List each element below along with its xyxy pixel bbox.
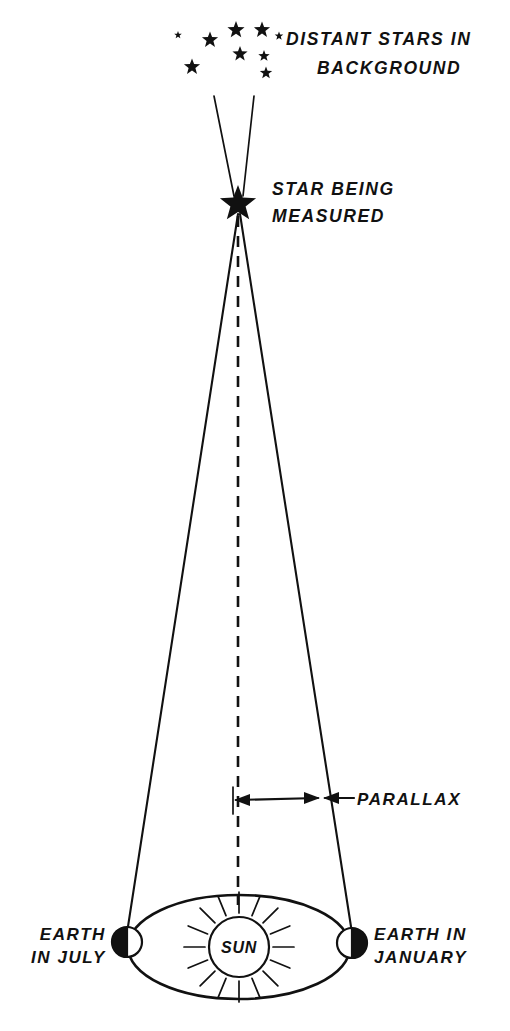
- star-measured-label-line2: MEASURED: [272, 206, 385, 226]
- star-measured-label-line1: STAR BEING: [272, 179, 395, 199]
- earth-january-label-line1: EARTH IN: [374, 925, 467, 944]
- sun-ray: [188, 960, 207, 968]
- sun-ray: [218, 896, 226, 915]
- distant-stars-label-line1: DISTANT STARS IN: [286, 29, 471, 49]
- parallax-label: PARALLAX: [357, 790, 461, 809]
- background-stars-group: [174, 21, 283, 78]
- small-star-icon: [232, 46, 247, 60]
- earth-july-label-line2: IN JULY: [31, 948, 106, 967]
- parallax-diagram: DISTANT STARS IN BACKGROUND STAR BEING M…: [0, 0, 510, 1031]
- sun-ray: [270, 926, 289, 934]
- earth-july-shaded-half: [112, 927, 127, 957]
- sun-ray: [252, 978, 260, 997]
- sight-line-to-earth-january: [240, 214, 352, 933]
- small-star-icon: [184, 59, 200, 74]
- sun-ray: [200, 908, 215, 923]
- small-star-icon: [275, 32, 284, 40]
- sun-ray: [200, 971, 215, 986]
- earth-july-icon: [112, 927, 142, 957]
- small-star-icon: [174, 31, 182, 38]
- sun-ray: [263, 971, 278, 986]
- earth-july-label-line1: EARTH: [40, 925, 106, 944]
- distant-stars-label-line2: BACKGROUND: [317, 58, 461, 78]
- upper-sight-ray-left: [214, 96, 234, 196]
- parallax-arrow-head-left: [234, 794, 250, 806]
- small-star-icon: [254, 22, 270, 37]
- sun-ray: [252, 896, 260, 915]
- parallax-diagram-canvas: DISTANT STARS IN BACKGROUND STAR BEING M…: [0, 0, 510, 1031]
- small-star-icon: [202, 32, 218, 47]
- sun-label: SUN: [221, 939, 257, 956]
- small-star-icon: [227, 21, 244, 37]
- earth-january-shaded-half: [352, 928, 367, 958]
- earth-january-icon: [337, 928, 367, 958]
- upper-sight-ray-right: [243, 96, 254, 196]
- sun-ray: [263, 908, 278, 923]
- sun-ray: [218, 978, 226, 997]
- small-star-icon: [260, 67, 272, 79]
- sight-line-to-earth-july: [127, 214, 238, 933]
- sun-ray: [270, 960, 289, 968]
- parallax-arrow-head-right: [304, 792, 320, 804]
- sun-ray: [188, 926, 207, 934]
- small-star-icon: [258, 50, 269, 61]
- earth-january-label-line2: JANUARY: [374, 948, 467, 967]
